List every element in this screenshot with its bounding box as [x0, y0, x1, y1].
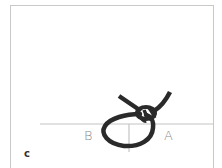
- panel-label: c: [24, 149, 30, 159]
- label-b: B: [84, 129, 93, 142]
- knot-diagram: [0, 0, 222, 168]
- rope-right-end: [154, 92, 170, 111]
- label-a: A: [164, 129, 173, 142]
- knot-wraps: [137, 107, 155, 121]
